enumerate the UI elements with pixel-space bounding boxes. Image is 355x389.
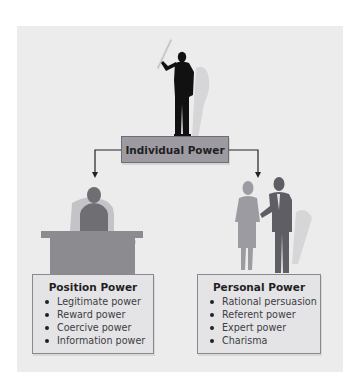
personal-power-box: Personal Power Rational persuasion Refer… [197, 274, 321, 354]
bullet-icon [210, 313, 214, 317]
leader-with-baton-icon [158, 40, 209, 138]
individual-power-box: Individual Power [121, 136, 229, 163]
connector-left [95, 150, 121, 173]
position-power-list: Legitimate power Reward power Coercive p… [33, 295, 153, 347]
position-power-title: Position Power [33, 281, 153, 293]
personal-power-title: Personal Power [198, 281, 320, 293]
position-power-box: Position Power Legitimate power Reward p… [32, 274, 154, 354]
list-item: Rational persuasion [210, 295, 320, 308]
bullet-icon [45, 339, 49, 343]
list-item: Reward power [45, 308, 153, 321]
two-people-talking-icon [235, 177, 312, 273]
list-item: Information power [45, 334, 153, 347]
personal-power-list: Rational persuasion Referent power Exper… [198, 295, 320, 347]
person-at-desk-icon [41, 187, 143, 275]
arrow-down-right-icon [255, 172, 261, 178]
bullet-icon [45, 300, 49, 304]
list-item: Legitimate power [45, 295, 153, 308]
list-item: Charisma [210, 334, 320, 347]
bullet-icon [210, 326, 214, 330]
bullet-icon [45, 326, 49, 330]
list-item: Referent power [210, 308, 320, 321]
list-item: Expert power [210, 321, 320, 334]
connector-right [229, 150, 258, 173]
list-item: Coercive power [45, 321, 153, 334]
bullet-icon [210, 339, 214, 343]
bullet-icon [45, 313, 49, 317]
arrow-down-left-icon [92, 172, 98, 178]
bullet-icon [210, 300, 214, 304]
individual-power-label: Individual Power [125, 144, 224, 156]
